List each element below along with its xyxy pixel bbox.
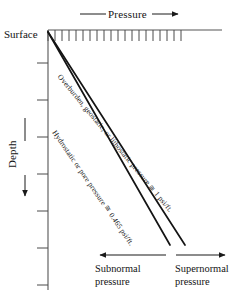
pressure-depth-diagram: Pressure Surface Depth Overburden, geost… xyxy=(0,0,248,300)
depth-axis-label: Depth xyxy=(6,140,18,168)
supernormal-pressure-label: Supernormal pressure xyxy=(175,262,248,288)
top-axis-ticks xyxy=(48,30,181,41)
pressure-axis-label: Pressure xyxy=(108,8,147,20)
surface-label: Surface xyxy=(4,28,38,40)
subnormal-pressure-label: Subnormal pressure xyxy=(95,262,167,288)
left-axis-ticks xyxy=(37,63,48,285)
